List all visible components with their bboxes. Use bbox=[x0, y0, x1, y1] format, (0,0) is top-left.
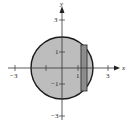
y-tick-label-3: 3 bbox=[54, 16, 58, 24]
y-tick-label-neg3: −3 bbox=[51, 112, 59, 120]
x-tick-label-1: 1 bbox=[76, 72, 80, 80]
y-axis-label: y bbox=[59, 0, 64, 8]
circle-diagram: x y −3 1 3 3 1 −1 −3 bbox=[0, 0, 140, 126]
x-axis-label: x bbox=[121, 64, 126, 72]
x-tick-label-3: 3 bbox=[106, 72, 110, 80]
x-tick-label-neg3: −3 bbox=[10, 72, 18, 80]
y-tick-label-1: 1 bbox=[55, 48, 59, 56]
x-axis-arrow-icon bbox=[114, 66, 120, 71]
y-tick-label-neg1: −1 bbox=[51, 80, 59, 88]
